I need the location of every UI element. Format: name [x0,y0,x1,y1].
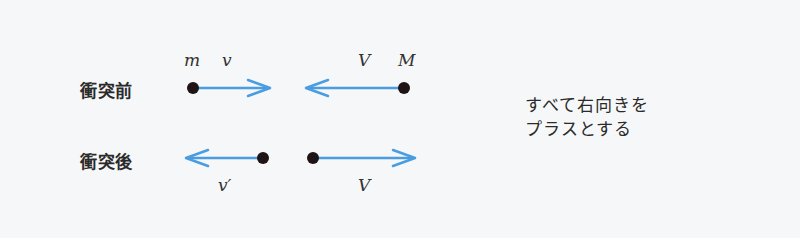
ball-m-before [187,82,199,94]
ball-M-after [307,152,319,164]
sign-convention-note: すべて右向きを プラスとする [525,93,649,141]
ball-m-after [257,152,269,164]
arrow-left-icon [186,150,263,166]
arrow-right-icon [193,80,270,96]
arrow-right-icon [313,150,415,166]
note-line-1: すべて右向きを [525,93,649,117]
arrow-left-icon [306,80,404,96]
collision-diagram [0,0,800,238]
ball-M-before [398,82,410,94]
note-line-2: プラスとする [525,117,649,141]
